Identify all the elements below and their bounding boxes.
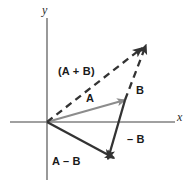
vector-a-plus-b-arrow xyxy=(47,48,142,122)
vector-b-label: B xyxy=(136,85,144,96)
vector-a-label: A xyxy=(86,93,94,104)
vector-a-minus-b-label: A – B xyxy=(52,156,81,167)
vector-diagram-canvas xyxy=(0,0,193,193)
vector-negative-b-label: – B xyxy=(127,134,145,145)
vector-a-minus-b-arrow xyxy=(47,122,114,158)
vector-a-plus-b-label: (A + B) xyxy=(58,66,95,77)
vector-diagram-figure: (A + B) A B – B A – B x y xyxy=(0,0,193,193)
vector-negative-b-arrow xyxy=(108,100,125,159)
y-axis-label: y xyxy=(42,4,47,16)
x-axis-label: x xyxy=(177,111,182,123)
